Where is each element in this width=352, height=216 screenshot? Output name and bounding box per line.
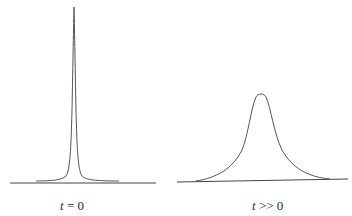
left-narrow-peak-curve [36, 7, 119, 181]
right-panel-label: t >> 0 [252, 198, 283, 214]
left-panel-label: t = 0 [60, 198, 84, 214]
left-label-value: = 0 [64, 198, 84, 213]
right-label-value: >> 0 [256, 198, 284, 213]
right-broad-peak-curve [196, 94, 330, 181]
peak-broadening-diagram [0, 0, 352, 216]
